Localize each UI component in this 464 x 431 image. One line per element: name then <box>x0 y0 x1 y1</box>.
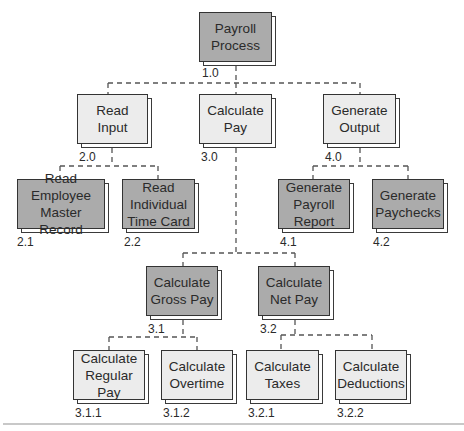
node-label: Calculate Regular Pay <box>81 350 137 401</box>
node-calculate-overtime: Calculate Overtime <box>161 350 233 400</box>
box: Calculate Regular Pay <box>73 350 145 400</box>
node-label: Generate Output <box>331 102 387 136</box>
node-calculate-net-pay: Calculate Net Pay <box>258 266 330 316</box>
box: Calculate Gross Pay <box>146 266 218 316</box>
node-calculate-deductions: Calculate Deductions <box>335 350 407 400</box>
node-number: 3.2 <box>260 322 277 336</box>
node-generate-payroll-report: Generate Payroll Report <box>278 179 350 229</box>
node-calculate-pay: Calculate Pay <box>199 94 272 144</box>
node-payroll-process: Payroll Process <box>199 12 272 62</box>
box: Calculate Pay <box>199 94 272 144</box>
box: Calculate Deductions <box>335 350 407 400</box>
node-label: Read Individual Time Card <box>127 179 190 230</box>
node-number: 4.0 <box>325 150 342 164</box>
node-number: 3.1.2 <box>163 406 190 420</box>
node-number: 2.2 <box>124 235 141 249</box>
node-number: 2.0 <box>79 150 96 164</box>
node-read-individual-time-card: Read Individual Time Card <box>122 179 195 229</box>
node-number: 3.1 <box>148 322 165 336</box>
node-label: Payroll Process <box>211 20 260 54</box>
bottom-divider <box>3 423 464 425</box>
node-label: Calculate Net Pay <box>266 274 322 308</box>
box: Generate Paychecks <box>372 179 444 229</box>
node-label: Calculate Gross Pay <box>150 274 213 308</box>
box: Calculate Overtime <box>161 350 233 400</box>
box: Calculate Net Pay <box>258 266 330 316</box>
node-label: Generate Paychecks <box>375 187 440 221</box>
box: Read Individual Time Card <box>122 179 195 229</box>
box: Calculate Taxes <box>246 350 319 400</box>
node-number: 3.0 <box>201 150 218 164</box>
node-number: 3.2.1 <box>248 406 275 420</box>
node-number: 1.0 <box>202 66 219 80</box>
node-generate-paychecks: Generate Paychecks <box>372 179 444 229</box>
box: Payroll Process <box>199 12 272 62</box>
node-number: 3.2.2 <box>337 406 364 420</box>
node-label: Generate Payroll Report <box>286 179 342 230</box>
node-label: Read Input <box>96 102 128 136</box>
node-calculate-gross-pay: Calculate Gross Pay <box>146 266 218 316</box>
box: Read Employee Master Record <box>17 179 105 229</box>
hierarchy-chart: Payroll Process 1.0 Read Input 2.0 Calcu… <box>0 0 464 431</box>
box: Read Input <box>77 94 148 144</box>
node-calculate-regular-pay: Calculate Regular Pay <box>73 350 145 400</box>
node-number: 2.1 <box>17 235 34 249</box>
node-generate-output: Generate Output <box>323 94 396 144</box>
node-read-input: Read Input <box>77 94 148 144</box>
node-number: 3.1.1 <box>75 406 102 420</box>
node-label: Calculate Pay <box>207 102 263 136</box>
node-number: 4.1 <box>280 235 297 249</box>
node-label: Calculate Overtime <box>169 358 225 392</box>
node-label: Calculate Taxes <box>254 358 310 392</box>
node-read-employee-master-record: Read Employee Master Record <box>17 179 105 229</box>
box: Generate Output <box>323 94 396 144</box>
node-label: Calculate Deductions <box>337 358 405 392</box>
node-label: Read Employee Master Record <box>20 170 102 238</box>
node-number: 4.2 <box>373 235 390 249</box>
box: Generate Payroll Report <box>278 179 350 229</box>
node-calculate-taxes: Calculate Taxes <box>246 350 319 400</box>
